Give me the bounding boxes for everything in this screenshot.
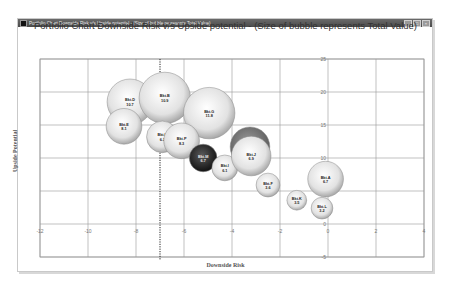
y-tick-label: 0 bbox=[323, 221, 326, 227]
y-tick-label: 10 bbox=[320, 155, 326, 161]
bubble: Bkt.F3.6 bbox=[256, 173, 280, 197]
bubble-value: 8.1 bbox=[121, 127, 126, 131]
bubble-value: 6.7 bbox=[201, 159, 206, 163]
bubble-value: 3.2 bbox=[319, 209, 324, 213]
bubble-value: 6.1 bbox=[222, 169, 227, 173]
y-tick-label: 25 bbox=[320, 56, 326, 62]
x-tick-label: -10 bbox=[84, 228, 91, 234]
bubble-value: 11.8 bbox=[206, 114, 213, 118]
bubble-label: Bkt.L bbox=[317, 205, 327, 209]
bubble-value: 8.3 bbox=[179, 142, 184, 146]
bubble: Bkt.L3.2 bbox=[311, 197, 333, 219]
bubble: Bkt.B10.9 bbox=[139, 72, 190, 123]
bubble-label: Bkt.M bbox=[198, 155, 208, 159]
bubble-label: Bkt.P bbox=[177, 137, 187, 141]
bubble-value: 6.7 bbox=[323, 180, 328, 184]
x-tick-label: -2 bbox=[278, 228, 283, 234]
x-tick-label: 0 bbox=[327, 228, 330, 234]
bubble-label: Bkt.G bbox=[204, 110, 214, 114]
x-tick-label: 2 bbox=[375, 228, 378, 234]
bubble-label: Bkt.B bbox=[160, 94, 170, 98]
y-tick-label: -5 bbox=[322, 254, 327, 260]
bubble-label: Bkt.F bbox=[263, 182, 273, 186]
bubble-label: Bkt.E bbox=[119, 123, 129, 127]
bubble: Bkt.A6.7 bbox=[308, 161, 344, 197]
bubble-value: 3.6 bbox=[265, 186, 270, 190]
bubble-label: Bkt.A bbox=[321, 176, 331, 180]
x-tick-label: 4 bbox=[423, 228, 426, 234]
x-tick-label: -12 bbox=[36, 228, 43, 234]
bubble-value: 3.5 bbox=[294, 201, 299, 205]
bubble-chart: -12-10-8-6-4-2024-50510152025 Bkt.D10.7B… bbox=[0, 0, 451, 293]
x-tick-label: -4 bbox=[230, 228, 235, 234]
y-axis-label: Upside Potential bbox=[12, 130, 18, 172]
bubble: Bkt.J6.9 bbox=[231, 136, 271, 176]
bubble-value: 10.9 bbox=[161, 99, 168, 103]
bubble-label: Bkt.J bbox=[247, 153, 256, 157]
y-tick-label: 15 bbox=[320, 122, 326, 128]
bubble-label: Bkt.I bbox=[221, 164, 229, 168]
bubble-label: Bkt.D bbox=[125, 98, 135, 102]
x-tick-label: -6 bbox=[182, 228, 187, 234]
bubble-label: Bkt.K bbox=[292, 197, 302, 201]
bubble: Bkt.E8.1 bbox=[106, 108, 142, 144]
bubble: Bkt.K3.5 bbox=[287, 190, 307, 210]
x-axis-label: Downside Risk bbox=[0, 262, 451, 268]
bubble-value: 10.7 bbox=[126, 103, 133, 107]
y-tick-label: 20 bbox=[320, 89, 326, 95]
x-tick-label: -8 bbox=[134, 228, 139, 234]
bubble-value: 6.9 bbox=[249, 157, 254, 161]
